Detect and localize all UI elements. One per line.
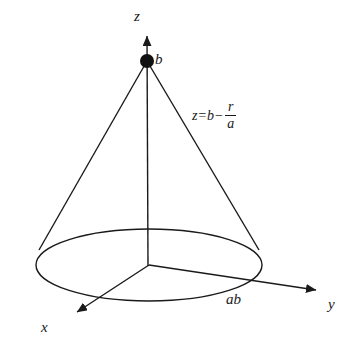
base-radius-label: ab [226, 292, 241, 307]
apex-value-label: b [155, 52, 163, 67]
x-axis-line [77, 265, 149, 312]
y-axis-line [149, 265, 316, 290]
y-axis-label: y [328, 297, 335, 312]
apex-point-dot [140, 54, 154, 68]
x-axis-label: x [41, 320, 48, 335]
equation-fraction: r a [225, 100, 236, 131]
cone-drawing [0, 0, 351, 349]
cone-slant-right [147, 61, 259, 250]
z-axis-label: z [134, 9, 140, 24]
cone-slant-left [39, 61, 147, 250]
equation-numerator: r [226, 100, 235, 115]
equation-denominator: a [225, 116, 236, 131]
z-axis-line [147, 36, 148, 266]
equation-left-side: z=b− [192, 109, 223, 123]
cone-equation-label: z=b− r a [192, 100, 236, 131]
cone-diagram-figure: z b y x ab z=b− r a [0, 0, 351, 349]
